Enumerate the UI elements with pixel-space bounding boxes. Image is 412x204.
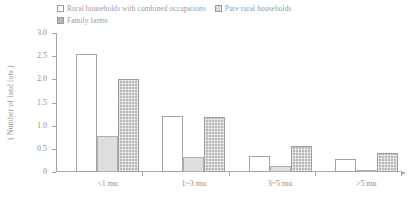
y-axis-title-text: ( Number of land lots ): [6, 65, 15, 139]
legend-item-family-farms: Family farms: [57, 16, 108, 25]
legend-row-2: Family farms: [57, 15, 402, 26]
y-axis-tick: 2.5: [52, 56, 56, 57]
y-axis-tick: 2.0: [52, 79, 56, 80]
bar: [291, 146, 312, 172]
x-axis-category-label: 3~5 mu: [268, 179, 293, 188]
bar: [335, 159, 356, 172]
legend-label: Pure rural households: [225, 4, 292, 13]
y-axis-tick-label: 2.0: [37, 75, 47, 83]
legend-label: Rural households with combined occupatio…: [67, 4, 206, 13]
y-axis-tick-label: 1.5: [37, 99, 47, 107]
white-square-icon: [57, 5, 64, 12]
y-axis-tick: 1.0: [52, 126, 56, 127]
y-axis-tick-label: 1.0: [37, 122, 47, 130]
bar: [204, 117, 225, 172]
x-axis-tick: [315, 172, 316, 176]
bar-group: 1~3 mu: [162, 33, 225, 172]
y-axis-tick-label: 2.5: [37, 52, 47, 60]
dark-gray-square-icon: [57, 17, 64, 24]
bar-group: 3~5 mu: [249, 33, 312, 172]
bar: [270, 166, 291, 172]
bar-group: >5 mu: [335, 33, 398, 172]
bar-chart-figure: Rural households with combined occupatio…: [0, 0, 412, 204]
legend-row-1: Rural households with combined occupatio…: [57, 3, 402, 14]
bar-group: <1 mu: [76, 33, 139, 172]
bar: [356, 170, 377, 172]
x-axis-tick: [229, 172, 230, 176]
bar: [97, 136, 118, 172]
legend-label: Family farms: [67, 16, 108, 25]
bar: [183, 157, 204, 172]
y-axis-tick: 3.0: [52, 33, 56, 34]
chart-legend: Rural households with combined occupatio…: [57, 3, 402, 26]
legend-item-rural-combined: Rural households with combined occupatio…: [57, 4, 206, 13]
light-gray-square-icon: [215, 5, 222, 12]
x-axis-tick: [401, 172, 402, 176]
y-axis-tick: 1.5: [52, 103, 56, 104]
bar: [377, 153, 398, 172]
plot-area: 00.51.01.52.02.53.0<1 mu1~3 mu3~5 mu>5 m…: [56, 33, 401, 172]
y-axis-tick: 0.5: [52, 149, 56, 150]
x-axis-category-label: <1 mu: [97, 179, 118, 188]
y-axis-tick: 0: [52, 172, 56, 173]
bar: [249, 156, 270, 172]
bar: [162, 116, 183, 172]
legend-item-pure-rural: Pure rural households: [215, 4, 292, 13]
bar: [118, 79, 139, 172]
y-axis-tick-label: 0.5: [37, 145, 47, 153]
x-axis-category-label: >5 mu: [356, 179, 377, 188]
x-axis-tick: [142, 172, 143, 176]
y-axis-title: ( Number of land lots ): [4, 33, 16, 172]
y-axis-line: [56, 33, 57, 172]
bar: [76, 54, 97, 172]
x-axis-category-label: 1~3 mu: [181, 179, 206, 188]
y-axis-tick-label: 3.0: [37, 29, 47, 37]
y-axis-tick-label: 0: [43, 168, 47, 176]
